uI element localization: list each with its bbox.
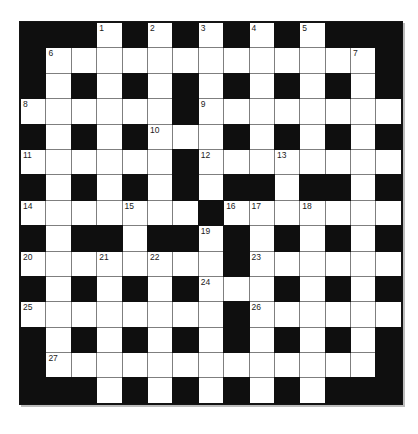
grid-cell[interactable] [351, 226, 375, 250]
grid-cell[interactable] [224, 99, 248, 123]
grid-cell[interactable] [250, 150, 274, 174]
grid-cell[interactable] [72, 99, 96, 123]
grid-cell[interactable] [46, 201, 70, 225]
grid-cell[interactable]: 20 [21, 252, 45, 276]
grid-cell[interactable]: 11 [21, 150, 45, 174]
grid-cell[interactable] [72, 48, 96, 72]
grid-cell[interactable] [326, 99, 350, 123]
grid-cell[interactable] [224, 353, 248, 377]
grid-cell[interactable] [351, 125, 375, 149]
grid-cell[interactable]: 16 [224, 201, 248, 225]
grid-cell[interactable] [300, 150, 324, 174]
grid-cell[interactable]: 9 [199, 99, 223, 123]
grid-cell[interactable] [326, 201, 350, 225]
grid-cell[interactable] [148, 74, 172, 98]
grid-cell[interactable]: 13 [275, 150, 299, 174]
grid-cell[interactable] [376, 252, 400, 276]
grid-cell[interactable] [326, 48, 350, 72]
grid-cell[interactable] [224, 48, 248, 72]
grid-cell[interactable]: 15 [123, 201, 147, 225]
grid-cell[interactable] [250, 74, 274, 98]
grid-cell[interactable] [97, 150, 121, 174]
grid-cell[interactable]: 24 [199, 277, 223, 301]
grid-cell[interactable] [376, 302, 400, 326]
grid-cell[interactable]: 17 [250, 201, 274, 225]
grid-cell[interactable] [97, 378, 121, 402]
grid-cell[interactable] [275, 252, 299, 276]
grid-cell[interactable] [250, 48, 274, 72]
grid-cell[interactable] [300, 378, 324, 402]
grid-cell[interactable] [72, 302, 96, 326]
grid-cell[interactable] [123, 226, 147, 250]
grid-cell[interactable] [351, 328, 375, 352]
grid-cell[interactable] [326, 150, 350, 174]
grid-cell[interactable] [351, 353, 375, 377]
grid-cell[interactable] [123, 99, 147, 123]
grid-cell[interactable] [123, 353, 147, 377]
grid-cell[interactable] [250, 378, 274, 402]
grid-cell[interactable] [173, 302, 197, 326]
grid-cell[interactable] [148, 150, 172, 174]
grid-cell[interactable]: 3 [199, 23, 223, 47]
grid-cell[interactable]: 26 [250, 302, 274, 326]
grid-cell[interactable] [123, 302, 147, 326]
grid-cell[interactable] [300, 353, 324, 377]
grid-cell[interactable] [250, 277, 274, 301]
grid-cell[interactable] [224, 150, 248, 174]
grid-cell[interactable] [148, 201, 172, 225]
grid-cell[interactable] [173, 48, 197, 72]
grid-cell[interactable] [46, 150, 70, 174]
grid-cell[interactable] [351, 99, 375, 123]
grid-cell[interactable]: 27 [46, 353, 70, 377]
grid-cell[interactable] [199, 125, 223, 149]
grid-cell[interactable] [300, 252, 324, 276]
grid-cell[interactable] [148, 99, 172, 123]
grid-cell[interactable] [275, 175, 299, 199]
grid-cell[interactable] [46, 328, 70, 352]
grid-cell[interactable]: 4 [250, 23, 274, 47]
grid-cell[interactable] [148, 302, 172, 326]
grid-cell[interactable] [46, 74, 70, 98]
grid-cell[interactable]: 5 [300, 23, 324, 47]
grid-cell[interactable] [97, 302, 121, 326]
grid-cell[interactable] [97, 99, 121, 123]
grid-cell[interactable] [173, 252, 197, 276]
grid-cell[interactable] [46, 99, 70, 123]
grid-cell[interactable] [123, 252, 147, 276]
grid-cell[interactable] [97, 48, 121, 72]
grid-cell[interactable] [351, 74, 375, 98]
grid-cell[interactable] [46, 277, 70, 301]
grid-cell[interactable] [199, 302, 223, 326]
grid-cell[interactable] [148, 175, 172, 199]
grid-cell[interactable] [250, 226, 274, 250]
grid-cell[interactable] [148, 277, 172, 301]
grid-cell[interactable] [199, 252, 223, 276]
grid-cell[interactable]: 12 [199, 150, 223, 174]
grid-cell[interactable] [326, 302, 350, 326]
grid-cell[interactable] [300, 328, 324, 352]
grid-cell[interactable] [199, 353, 223, 377]
grid-cell[interactable] [46, 125, 70, 149]
grid-cell[interactable] [300, 277, 324, 301]
grid-cell[interactable] [199, 48, 223, 72]
grid-cell[interactable] [199, 378, 223, 402]
grid-cell[interactable]: 6 [46, 48, 70, 72]
grid-cell[interactable] [173, 201, 197, 225]
grid-cell[interactable] [97, 125, 121, 149]
grid-cell[interactable] [300, 226, 324, 250]
grid-cell[interactable] [72, 150, 96, 174]
grid-cell[interactable] [46, 302, 70, 326]
grid-cell[interactable] [97, 277, 121, 301]
grid-cell[interactable]: 14 [21, 201, 45, 225]
grid-cell[interactable] [148, 378, 172, 402]
grid-cell[interactable] [376, 99, 400, 123]
grid-cell[interactable] [351, 302, 375, 326]
grid-cell[interactable] [46, 252, 70, 276]
grid-cell[interactable] [250, 353, 274, 377]
grid-cell[interactable] [97, 353, 121, 377]
grid-cell[interactable]: 22 [148, 252, 172, 276]
grid-cell[interactable] [351, 201, 375, 225]
grid-cell[interactable] [148, 353, 172, 377]
grid-cell[interactable] [300, 74, 324, 98]
grid-cell[interactable] [250, 99, 274, 123]
